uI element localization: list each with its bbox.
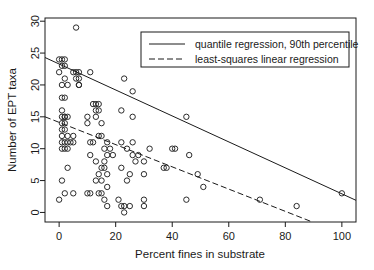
data-point [59, 108, 64, 113]
data-point [184, 197, 189, 202]
y-tick-label: 15 [29, 111, 41, 123]
data-point [141, 159, 146, 164]
x-tick-label: 100 [333, 230, 351, 242]
x-tick-label: 40 [166, 230, 178, 242]
data-point [62, 76, 67, 81]
chart-legend: quantile regression, 90th percentileleas… [141, 32, 359, 67]
data-point [59, 82, 64, 87]
data-point [85, 114, 90, 119]
scatter-plot-figure: 020406080100051015202530 quantile regres… [0, 0, 374, 270]
data-point [119, 140, 124, 145]
data-point [88, 152, 93, 157]
data-point [71, 191, 76, 196]
data-point [93, 114, 98, 119]
data-point [186, 152, 191, 157]
data-point [110, 152, 115, 157]
data-point [127, 203, 132, 208]
x-tick-label: 80 [279, 230, 291, 242]
regression-line-solid [45, 58, 356, 201]
x-axis-title: Percent fines in substrate [135, 248, 265, 260]
data-point [294, 203, 299, 208]
y-tick-label: 10 [29, 143, 41, 155]
data-point [130, 140, 135, 145]
x-tick-label: 60 [223, 230, 235, 242]
plot-canvas: 020406080100051015202530 quantile regres… [0, 0, 374, 270]
legend-label: quantile regression, 90th percentile [195, 38, 359, 50]
y-axis-title: Number of EPT taxa [6, 67, 18, 172]
data-point [93, 159, 98, 164]
data-point [130, 114, 135, 119]
data-point [141, 203, 146, 208]
data-point [99, 178, 104, 183]
y-tick-label: 5 [29, 178, 41, 184]
data-point [99, 120, 104, 125]
data-point [65, 165, 70, 170]
legend-label: least-squares linear regression [195, 53, 339, 65]
regression-line-dashed [45, 117, 311, 222]
y-tick-label: 25 [29, 47, 41, 59]
data-point [65, 133, 70, 138]
data-point [105, 152, 110, 157]
data-point [105, 203, 110, 208]
data-point [59, 178, 64, 183]
data-point [121, 76, 126, 81]
data-point [105, 184, 110, 189]
x-tick-label: 0 [56, 230, 62, 242]
data-point [141, 171, 146, 176]
data-point [102, 146, 107, 151]
data-point [62, 191, 67, 196]
data-point [119, 165, 124, 170]
y-tick-label: 0 [29, 209, 41, 215]
data-point [130, 152, 135, 157]
data-point [85, 120, 90, 125]
data-point [147, 146, 152, 151]
data-point [65, 82, 70, 87]
y-tick-label: 30 [29, 15, 41, 27]
data-point [88, 69, 93, 74]
data-point [76, 82, 81, 87]
data-point [102, 159, 107, 164]
data-point [93, 178, 98, 183]
data-point [141, 197, 146, 202]
data-point [184, 114, 189, 119]
data-point [105, 171, 110, 176]
data-point [119, 108, 124, 113]
data-point [116, 197, 121, 202]
data-point [73, 25, 78, 30]
data-point [56, 69, 61, 74]
data-point [102, 197, 107, 202]
data-point [133, 159, 138, 164]
data-point [107, 146, 112, 151]
data-point [201, 184, 206, 189]
data-point [127, 171, 132, 176]
data-point [121, 210, 126, 215]
data-point [59, 133, 64, 138]
data-point [56, 197, 61, 202]
data-point [71, 133, 76, 138]
data-point [124, 178, 129, 183]
y-tick-label: 20 [29, 79, 41, 91]
data-point [130, 89, 135, 94]
data-point [96, 171, 101, 176]
x-tick-label: 20 [110, 230, 122, 242]
